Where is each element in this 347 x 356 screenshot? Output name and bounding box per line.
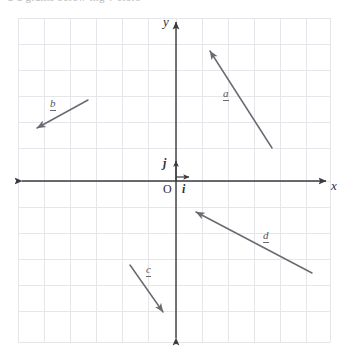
vector-b-label: b — [50, 98, 56, 111]
unit-vectors — [176, 161, 189, 181]
unit-vector-j-label: j — [163, 157, 166, 169]
x-axis-label: x — [331, 179, 337, 192]
vector-c-label: c — [146, 264, 151, 277]
vector-b-arrow — [37, 100, 88, 128]
vector-diagram-figure: a d grams below ing v ctors — [0, 0, 347, 356]
unit-vector-i-label: i — [182, 183, 185, 195]
coordinate-plane-svg — [0, 0, 347, 356]
vector-d-label: d — [263, 230, 269, 243]
vector-a-arrow — [210, 51, 272, 148]
origin-label: O — [163, 183, 172, 195]
vector-a-label: a — [223, 88, 229, 101]
y-axis-label: y — [163, 15, 169, 28]
grid-lines — [18, 18, 330, 342]
